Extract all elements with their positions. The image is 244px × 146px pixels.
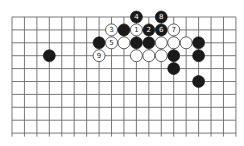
black-stone <box>130 37 142 49</box>
white-stone: 1 <box>130 24 142 36</box>
white-stone: 9 <box>93 50 105 62</box>
white-stone-icon <box>155 50 167 62</box>
black-stone-icon <box>168 63 180 75</box>
black-stone <box>193 50 205 62</box>
black-stone: 2 <box>143 24 155 36</box>
black-stone <box>168 63 180 75</box>
go-board: 483126759 <box>0 0 244 146</box>
move-number-label: 1 <box>134 26 138 34</box>
black-stone <box>93 37 105 49</box>
move-number-label: 3 <box>109 26 113 34</box>
white-stone <box>143 50 155 62</box>
move-number-label: 2 <box>147 26 151 34</box>
black-stone-icon <box>168 50 180 62</box>
white-stone <box>130 50 142 62</box>
black-stone <box>193 37 205 49</box>
move-number-label: 8 <box>159 13 163 21</box>
black-stone-icon <box>118 24 130 36</box>
white-stone-icon <box>180 37 192 49</box>
go-board-diagram: 483126759 <box>0 0 244 146</box>
black-stone-icon <box>193 37 205 49</box>
black-stone <box>168 50 180 62</box>
black-stone-icon <box>130 37 142 49</box>
white-stone: 3 <box>106 24 118 36</box>
white-stone: 5 <box>106 37 118 49</box>
black-stone-icon <box>43 50 55 62</box>
move-number-label: 7 <box>171 26 175 34</box>
white-stone-icon <box>130 50 142 62</box>
white-stone-icon <box>168 37 180 49</box>
black-stone: 6 <box>155 24 167 36</box>
black-stone-icon <box>193 76 205 88</box>
white-stone <box>155 37 167 49</box>
black-stone-icon <box>143 37 155 49</box>
white-stone <box>180 37 192 49</box>
black-stone <box>193 76 205 88</box>
white-stone: 7 <box>168 24 180 36</box>
black-stone: 8 <box>155 11 167 23</box>
move-number-label: 6 <box>159 26 164 34</box>
black-stone-icon <box>193 50 205 62</box>
white-stone <box>168 37 180 49</box>
white-stone <box>155 50 167 62</box>
white-stone-icon <box>155 37 167 49</box>
move-number-label: 9 <box>97 52 101 60</box>
black-stone: 4 <box>130 11 142 23</box>
white-stone-icon <box>118 37 130 49</box>
move-number-label: 5 <box>109 39 113 47</box>
white-stone <box>118 37 130 49</box>
move-number-label: 4 <box>134 13 139 21</box>
white-stone-icon <box>143 50 155 62</box>
black-stone <box>43 50 55 62</box>
black-stone <box>143 37 155 49</box>
black-stone-icon <box>93 37 105 49</box>
black-stone <box>118 24 130 36</box>
